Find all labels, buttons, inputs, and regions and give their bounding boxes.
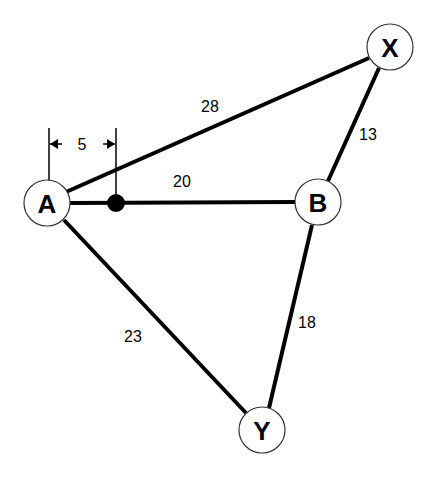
node-a: A — [24, 180, 70, 226]
weight-a-x: 28 — [201, 98, 219, 115]
arrowhead-left-icon — [50, 139, 58, 149]
svg-text:X: X — [381, 33, 399, 63]
edge-a-y — [64, 220, 246, 413]
edge-a-b — [70, 202, 295, 203]
weight-x-b: 13 — [359, 126, 377, 143]
node-x: X — [367, 24, 413, 70]
edge-a-x — [66, 58, 369, 192]
weight-a-b: 20 — [173, 173, 191, 190]
svg-text:A: A — [38, 189, 57, 219]
weight-a-y: 23 — [124, 328, 142, 345]
weight-b-y: 18 — [298, 314, 316, 331]
graph-diagram: 5 A B X Y 28 20 13 23 18 — [0, 0, 438, 479]
marker-distance-label: 5 — [78, 136, 87, 153]
node-b: B — [295, 179, 341, 225]
svg-text:B: B — [309, 188, 328, 218]
marker-dot — [107, 194, 125, 212]
edge-x-b — [328, 68, 379, 181]
node-y: Y — [239, 407, 285, 453]
svg-text:Y: Y — [253, 416, 270, 446]
arrowhead-right-icon — [107, 139, 115, 149]
